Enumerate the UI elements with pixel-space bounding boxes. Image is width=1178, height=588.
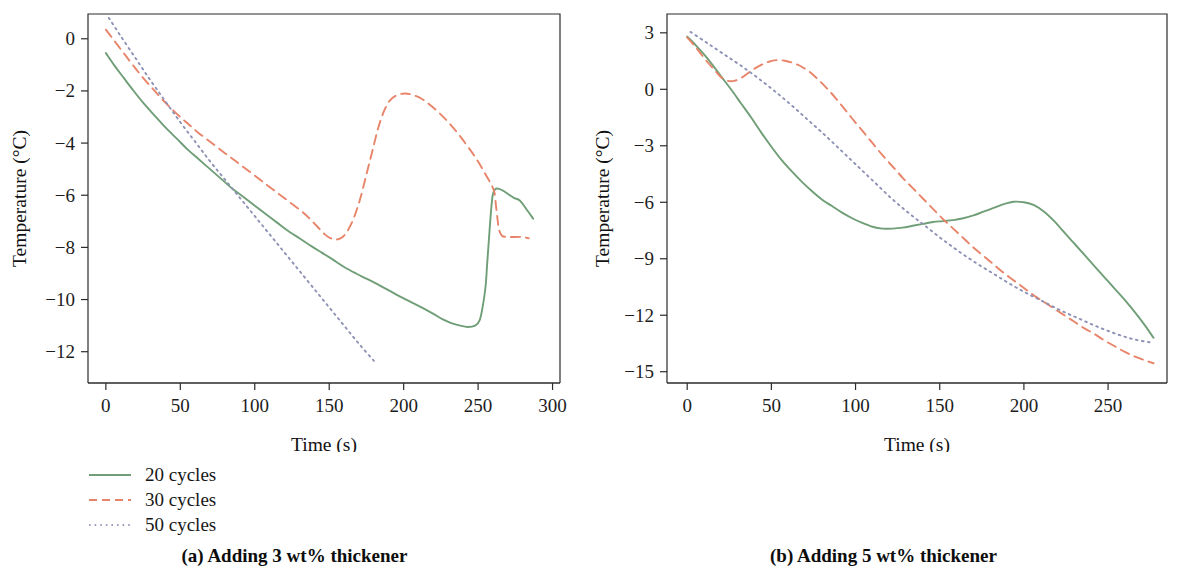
y-tick-label: 3 [645, 22, 655, 43]
x-tick-label: 300 [538, 395, 567, 416]
y-tick-label: −4 [55, 133, 76, 154]
chart-a: 0501001502002503000−2−4−6−8−10−12Time (s… [0, 0, 589, 452]
series-line [691, 32, 1154, 343]
series-line [687, 38, 1153, 364]
y-tick-label: 0 [66, 28, 76, 49]
series-line [106, 53, 533, 327]
x-tick-label: 50 [171, 395, 190, 416]
x-tick-label: 0 [682, 395, 692, 416]
y-axis-title: Temperature (°C) [9, 130, 31, 267]
y-tick-label: −6 [55, 185, 75, 206]
x-tick-label: 50 [762, 395, 781, 416]
panel-caption-a: (a) Adding 3 wt% thickener [0, 545, 589, 567]
x-tick-label: 150 [315, 395, 344, 416]
panel-b: 05010015020025030−3−6−9−12−15Time (s)Tem… [589, 0, 1178, 588]
y-tick-label: −15 [624, 361, 654, 382]
y-tick-label: −8 [55, 237, 75, 258]
legend-a: 20 cycles 30 cycles 50 cycles [88, 462, 418, 537]
x-tick-label: 150 [925, 395, 954, 416]
figure-container: 0501001502002503000−2−4−6−8−10−12Time (s… [0, 0, 1178, 588]
legend-swatch-solid-icon [88, 468, 132, 482]
y-tick-label: −6 [634, 192, 654, 213]
x-axis-title: Time (s) [291, 434, 357, 452]
panel-a: 0501001502002503000−2−4−6−8−10−12Time (s… [0, 0, 589, 588]
legend-label: 20 cycles [145, 464, 216, 486]
x-tick-label: 250 [1094, 395, 1123, 416]
x-tick-label: 100 [241, 395, 270, 416]
x-tick-label: 0 [101, 395, 111, 416]
y-tick-label: −10 [45, 289, 75, 310]
chart-b: 05010015020025030−3−6−9−12−15Time (s)Tem… [589, 0, 1178, 452]
x-tick-label: 250 [464, 395, 493, 416]
x-tick-label: 200 [1010, 395, 1039, 416]
series-line [106, 30, 529, 240]
series-line [109, 18, 374, 361]
y-tick-label: −12 [45, 341, 75, 362]
y-tick-label: −9 [634, 248, 654, 269]
legend-label: 50 cycles [145, 514, 216, 536]
x-axis-title: Time (s) [884, 434, 950, 452]
x-tick-label: 200 [389, 395, 418, 416]
legend-label: 30 cycles [145, 489, 216, 511]
legend-swatch-dashed-icon [88, 493, 132, 507]
y-tick-label: −12 [624, 305, 654, 326]
y-tick-label: −2 [55, 80, 75, 101]
y-tick-label: 0 [645, 79, 655, 100]
legend-item[interactable]: 20 cycles [88, 462, 418, 487]
legend-swatch-dotted-icon [88, 518, 132, 532]
series-line [687, 37, 1153, 338]
legend-item[interactable]: 30 cycles [88, 487, 418, 512]
y-tick-label: −3 [634, 135, 654, 156]
x-tick-label: 100 [841, 395, 870, 416]
plot-area-b: 05010015020025030−3−6−9−12−15Time (s)Tem… [589, 0, 1178, 452]
plot-area-a: 0501001502002503000−2−4−6−8−10−12Time (s… [0, 0, 589, 452]
legend-item[interactable]: 50 cycles [88, 512, 418, 537]
panel-caption-b: (b) Adding 5 wt% thickener [589, 545, 1178, 567]
y-axis-title: Temperature (°C) [592, 130, 614, 267]
